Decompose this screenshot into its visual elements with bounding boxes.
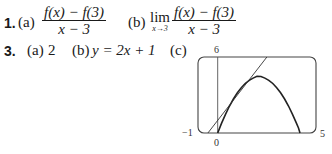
x-max-label: 5 xyxy=(320,128,325,139)
x-min-label: −1 xyxy=(182,127,193,138)
graph-figure xyxy=(0,0,332,154)
y-max-label: 6 xyxy=(214,44,219,55)
origin-label: 0 xyxy=(214,137,219,148)
graph-viewing-window xyxy=(198,57,316,133)
tangent-line xyxy=(208,57,267,133)
